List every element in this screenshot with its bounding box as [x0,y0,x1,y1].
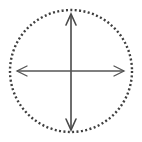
figure-canvas [0,0,142,142]
diagram-svg [0,0,142,142]
